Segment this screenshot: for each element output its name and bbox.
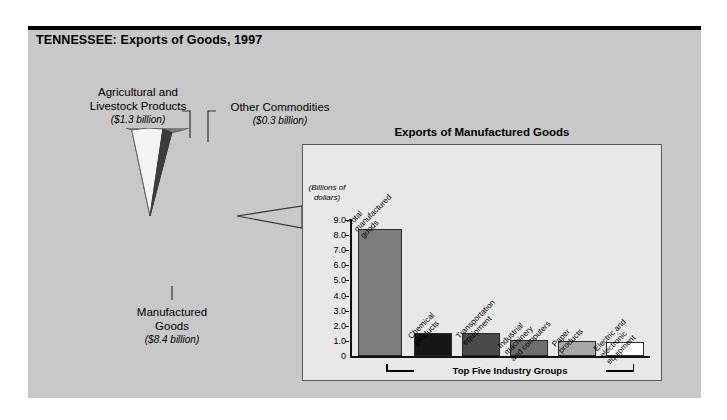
y-tick-label-6: 6.0: [320, 261, 346, 270]
y-tick-label-5: 5.0: [320, 276, 346, 285]
y-tick-label-1: 1.0: [320, 337, 346, 346]
pie-chart: [62, 128, 238, 304]
industry-bracket-label: Top Five Industry Groups: [386, 365, 634, 376]
y-tick-mark-3: [345, 311, 349, 312]
pie-label-agricultural-line2: Livestock Products: [90, 100, 187, 112]
y-tick-label-9: 9.0: [320, 216, 346, 225]
figure-root: TENNESSEE: Exports of Goods, 1997 Agricu…: [0, 0, 727, 420]
y-axis-units-label: (Billions of dollars): [302, 183, 352, 202]
inset-title: Exports of Manufactured Goods: [302, 126, 662, 138]
y-tick-mark-2: [345, 326, 349, 327]
y-axis-units-line1: (Billions of: [309, 183, 346, 192]
industry-bracket: Top Five Industry Groups: [386, 364, 634, 378]
pie-label-manufactured-line1: Manufactured: [137, 306, 207, 318]
pie-label-agricultural-amount: ($1.3 billion): [58, 113, 218, 126]
y-tick-mark-5: [345, 280, 349, 281]
page-title: TENNESSEE: Exports of Goods, 1997: [36, 33, 262, 47]
pie-label-agricultural-line1: Agricultural and: [98, 86, 178, 98]
y-tick-label-0: 0: [320, 352, 346, 361]
pie-svg: [62, 128, 238, 304]
y-tick-mark-8: [345, 235, 349, 236]
y-tick-mark-4: [345, 296, 349, 297]
pie-label-agricultural: Agricultural and Livestock Products ($1.…: [58, 85, 218, 126]
y-tick-label-2: 2.0: [320, 322, 346, 331]
pie-label-other: Other Commodities ($0.3 billion): [210, 100, 350, 127]
y-tick-label-7: 7.0: [320, 246, 346, 255]
pie-label-other-line1: Other Commodities: [230, 101, 329, 113]
bar-total-manufactured-goods: [358, 229, 402, 356]
y-tick-label-4: 4.0: [320, 292, 346, 301]
y-tick-label-3: 3.0: [320, 307, 346, 316]
y-tick-mark-6: [345, 265, 349, 266]
y-tick-label-8: 8.0: [320, 231, 346, 240]
y-tick-mark-7: [345, 250, 349, 251]
pie-label-manufactured: Manufactured Goods ($8.4 billion): [92, 305, 252, 346]
pie-label-manufactured-line2: Goods: [155, 320, 189, 332]
y-tick-mark-1: [345, 341, 349, 342]
y-axis-units-line2: dollars): [314, 193, 340, 202]
pie-label-manufactured-amount: ($8.4 billion): [92, 333, 252, 346]
